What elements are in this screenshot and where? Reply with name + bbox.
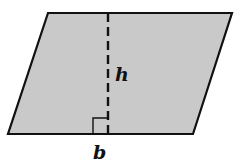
height-label: h: [115, 63, 129, 85]
base-label: b: [93, 141, 106, 163]
parallelogram-figure: h b: [0, 0, 239, 165]
parallelogram-diagram: h b: [0, 0, 239, 165]
